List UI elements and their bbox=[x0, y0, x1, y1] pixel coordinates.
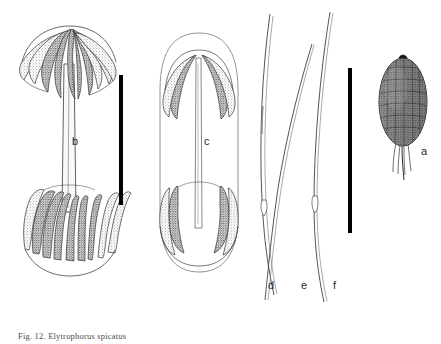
scale-bar-left bbox=[119, 75, 123, 205]
panel-e-bristle bbox=[265, 44, 314, 300]
panel-c-central-column bbox=[195, 58, 202, 228]
panel-f-bristle bbox=[312, 12, 333, 302]
illustration-canvas bbox=[0, 0, 441, 344]
panel-label-f: f bbox=[333, 280, 336, 291]
scale-bar-right bbox=[348, 68, 352, 233]
panel-d-bristle bbox=[261, 14, 277, 295]
panel-b-bottom-crown bbox=[24, 185, 131, 276]
figure-caption: Fig. 12. Elytrophorus spicatus bbox=[18, 331, 126, 341]
panel-label-e: e bbox=[301, 280, 307, 291]
panel-label-c: c bbox=[204, 136, 210, 147]
panel-b-open-spikelet bbox=[20, 26, 131, 276]
panel-a-apex bbox=[399, 55, 407, 58]
panel-label-d: d bbox=[268, 280, 274, 291]
panel-label-a: a bbox=[421, 146, 427, 157]
panel-c-closed-spikelet bbox=[160, 33, 238, 272]
figure-plate: b c d e f a Fig. 12. Elytrophorus spicat… bbox=[0, 0, 441, 344]
panel-label-b: b bbox=[72, 136, 78, 147]
panel-a-caryopsis bbox=[379, 55, 427, 180]
panel-d-node bbox=[261, 200, 267, 216]
panel-a-basal-hairs bbox=[393, 143, 411, 180]
